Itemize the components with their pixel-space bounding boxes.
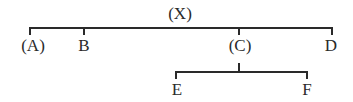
edge-to-e <box>175 71 177 79</box>
edge-to-a <box>29 27 31 35</box>
node-d: D <box>325 37 337 55</box>
node-f: F <box>302 81 311 99</box>
edge-to-d <box>331 27 333 35</box>
node-a: (A) <box>21 37 45 55</box>
edge-root-bar <box>29 27 333 29</box>
node-x: (X) <box>168 5 192 23</box>
edge-c-bar <box>175 71 308 73</box>
node-e: E <box>172 81 182 99</box>
edge-to-f <box>306 71 308 79</box>
node-b: B <box>78 37 89 55</box>
edge-to-c <box>238 27 240 35</box>
edge-to-b <box>83 27 85 35</box>
node-c: (C) <box>229 37 252 55</box>
